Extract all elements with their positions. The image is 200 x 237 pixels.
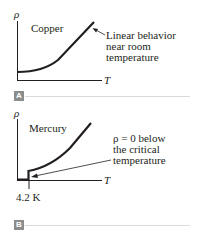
panel-b-badge: B (14, 220, 24, 230)
critical-temperature-tick-label: 4.2 K (16, 192, 40, 203)
panel-b-separator (25, 225, 190, 226)
copper-annotation-arrow (93, 28, 106, 35)
copper-y-axis-label: ρ (14, 9, 19, 20)
mercury-annotation-line: temperature (113, 155, 166, 166)
copper-x-axis-label: T (104, 75, 110, 86)
mercury-annotation-arrow (31, 160, 111, 178)
panel-a-separator (25, 96, 190, 97)
mercury-annotation: ρ = 0 below the critical temperature (113, 133, 166, 166)
mercury-material-label: Mercury (29, 123, 67, 134)
mercury-y-axis-label: ρ (14, 108, 19, 119)
panel-a-badge: A (14, 91, 24, 101)
copper-annotation: Linear behavior near room temperature (106, 30, 176, 63)
copper-material-label: Copper (31, 23, 63, 34)
copper-annotation-line: temperature (106, 52, 176, 63)
mercury-x-axis-label: T (104, 175, 110, 186)
